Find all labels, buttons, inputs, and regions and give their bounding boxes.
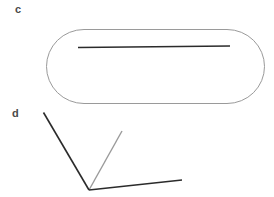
figure-root: c d xyxy=(0,0,274,197)
panel-d-graphic xyxy=(0,0,274,197)
gray-ray-shape xyxy=(89,131,122,190)
dark-right-arm-shape xyxy=(89,180,182,190)
dark-left-arm-shape xyxy=(44,113,90,191)
